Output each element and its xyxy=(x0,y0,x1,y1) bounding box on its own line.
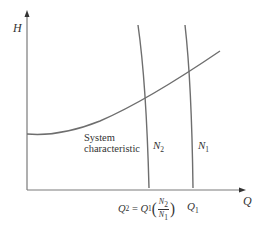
pump-curve-n1 xyxy=(185,25,193,188)
q1-label: Q1 xyxy=(187,201,199,215)
n2-label-sub: 2 xyxy=(160,145,164,154)
q2-equals: = xyxy=(129,204,140,215)
q2-formula-label: Q2 = Q1 ( N2 N1 ) xyxy=(118,197,175,221)
x-axis-label: Q xyxy=(243,195,252,207)
frac-den-sub: 1 xyxy=(164,212,168,221)
system-label-line1: System xyxy=(84,132,140,143)
q1-label-sub: 1 xyxy=(195,206,199,215)
diagram-canvas xyxy=(0,0,264,226)
x-axis-arrow-icon xyxy=(239,188,246,193)
left-paren: ( xyxy=(152,201,157,218)
pump-curve-n2 xyxy=(138,25,149,188)
system-characteristic-label: System characteristic xyxy=(84,132,140,154)
y-axis-arrow-icon xyxy=(25,10,30,17)
speed-ratio-fraction: N2 N1 xyxy=(158,197,169,221)
y-axis-label: H xyxy=(13,22,22,34)
n1-label: N1 xyxy=(198,140,209,154)
frac-num-sub: 2 xyxy=(164,200,168,209)
n1-label-sub: 1 xyxy=(205,145,209,154)
q1-label-main: Q xyxy=(187,200,195,212)
q2-lhs: Q xyxy=(118,204,126,215)
q2-rhs: Q xyxy=(141,204,149,215)
system-label-line2: characteristic xyxy=(84,143,140,154)
pump-curve-diagram: H Q System characteristic N2 N1 Q2 = Q1 … xyxy=(0,0,264,226)
n2-label: N2 xyxy=(153,140,164,154)
right-paren: ) xyxy=(170,201,175,218)
